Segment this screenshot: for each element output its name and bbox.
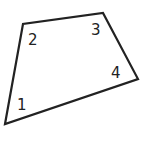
angle-label-2: 2 [28, 31, 38, 49]
angle-label-4: 4 [111, 64, 121, 82]
angle-label-3: 3 [91, 21, 101, 39]
quadrilateral-diagram: 1 2 3 4 [0, 0, 145, 146]
angle-label-1: 1 [17, 96, 27, 114]
